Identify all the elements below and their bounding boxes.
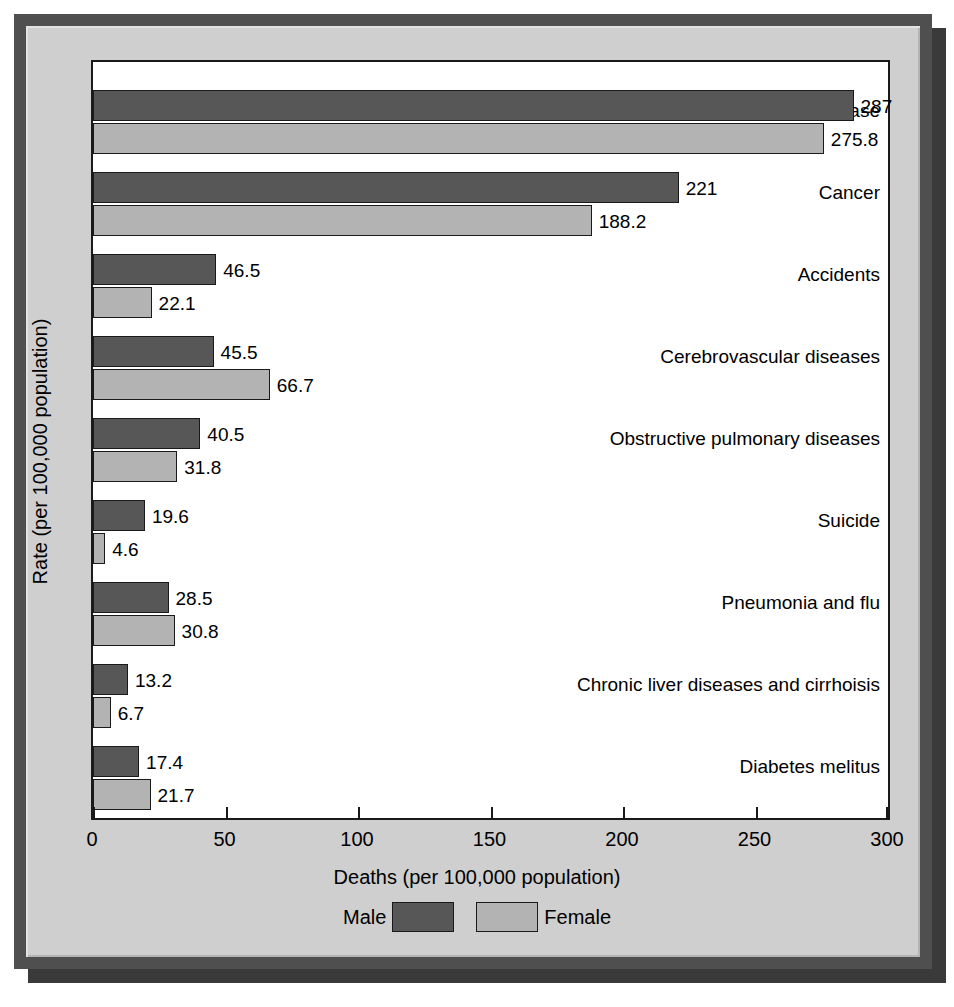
bar-value-label: 188.2 [599, 212, 647, 231]
y-axis-title: Rate (per 100,000 population) [29, 292, 52, 612]
legend-swatch-male [392, 902, 454, 932]
bar-group: Suicide19.64.6 [93, 480, 888, 562]
bar-female [93, 779, 151, 810]
bar-value-label: 46.5 [223, 261, 260, 280]
bar-group: Heart disease287275.8 [93, 70, 888, 152]
bar-value-label: 31.8 [184, 458, 221, 477]
plot-area: Heart disease287275.8Cancer221188.2Accid… [91, 60, 890, 820]
bar-value-label: 45.5 [221, 343, 258, 362]
bar-group: Accidents46.522.1 [93, 234, 888, 316]
x-axis-tick [491, 807, 493, 818]
legend-swatch-female [476, 902, 538, 932]
bar-male [93, 500, 145, 531]
category-label: Pneumonia and flu [722, 593, 880, 612]
category-label: Chronic liver diseases and cirrhoisis [577, 675, 880, 694]
bar-male [93, 582, 169, 613]
bar-value-label: 22.1 [159, 294, 196, 313]
bar-group: Pneumonia and flu28.530.8 [93, 562, 888, 644]
bar-female [93, 451, 177, 482]
bar-male [93, 254, 216, 285]
x-axis-tick-label: 200 [605, 828, 638, 851]
x-axis-tick [358, 807, 360, 818]
bar-value-label: 275.8 [831, 130, 879, 149]
bar-group: Cerebrovascular diseases45.566.7 [93, 316, 888, 398]
x-axis-tick-label: 300 [870, 828, 903, 851]
x-axis-tick-label: 150 [473, 828, 506, 851]
bar-male [93, 90, 854, 121]
bar-value-label: 287 [861, 97, 893, 116]
bar-group: Diabetes melitus17.421.7 [93, 726, 888, 808]
x-axis-tick [93, 807, 95, 818]
bar-male [93, 746, 139, 777]
x-axis-tick [226, 807, 228, 818]
category-label: Cerebrovascular diseases [660, 347, 880, 366]
bar-group: Obstructive pulmonary diseases40.531.8 [93, 398, 888, 480]
category-label: Diabetes melitus [740, 757, 880, 776]
bar-male [93, 172, 679, 203]
x-axis-tick-label: 250 [738, 828, 771, 851]
bar-female [93, 369, 270, 400]
bar-female [93, 533, 105, 564]
bar-female [93, 123, 824, 154]
bar-value-label: 4.6 [112, 540, 138, 559]
bar-value-label: 17.4 [146, 753, 183, 772]
bar-value-label: 21.7 [158, 786, 195, 805]
legend-entry-male: Male [337, 902, 454, 932]
bar-male [93, 418, 200, 449]
bar-value-label: 221 [686, 179, 718, 198]
legend-entry-female: Female [476, 902, 617, 932]
x-axis-tick-label: 100 [340, 828, 373, 851]
category-label: Obstructive pulmonary diseases [610, 429, 880, 448]
bar-group: Cancer221188.2 [93, 152, 888, 234]
bar-female [93, 205, 592, 236]
chart-legend: Male Female [0, 902, 954, 932]
bar-group: Chronic liver diseases and cirrhoisis13.… [93, 644, 888, 726]
x-axis-tick [623, 807, 625, 818]
chart-figure: Heart disease287275.8Cancer221188.2Accid… [0, 0, 954, 1007]
bar-value-label: 66.7 [277, 376, 314, 395]
bar-value-label: 13.2 [135, 671, 172, 690]
legend-label-male: Male [337, 906, 392, 929]
x-axis-tick [756, 807, 758, 818]
bar-value-label: 40.5 [207, 425, 244, 444]
bar-value-label: 30.8 [182, 622, 219, 641]
x-axis-title: Deaths (per 100,000 population) [0, 866, 954, 889]
bar-male [93, 664, 128, 695]
bar-value-label: 6.7 [118, 704, 144, 723]
bar-female [93, 697, 111, 728]
bar-value-label: 28.5 [176, 589, 213, 608]
bar-male [93, 336, 214, 367]
legend-label-female: Female [538, 906, 617, 929]
x-axis-tick-label: 0 [86, 828, 97, 851]
category-label: Accidents [798, 265, 880, 284]
x-axis-tick [886, 807, 888, 818]
bar-value-label: 19.6 [152, 507, 189, 526]
bar-female [93, 615, 175, 646]
category-label: Cancer [819, 183, 880, 202]
category-label: Suicide [818, 511, 880, 530]
x-axis-tick-label: 50 [213, 828, 235, 851]
bar-female [93, 287, 152, 318]
